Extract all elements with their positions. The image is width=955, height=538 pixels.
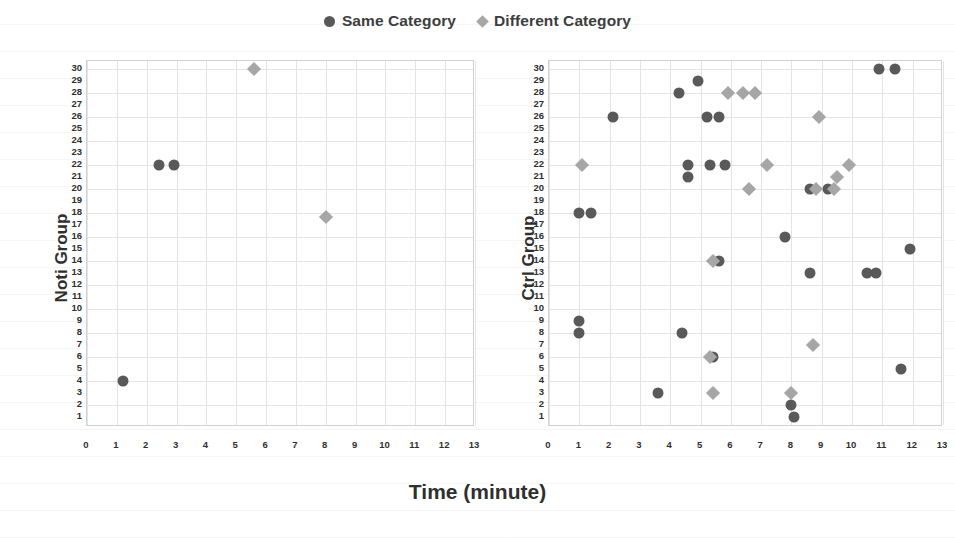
x-tick-label: 11	[409, 440, 419, 450]
y-tick-label: 7	[539, 339, 544, 349]
y-tick-label: 3	[539, 387, 544, 397]
legend-marker-diamond-icon	[476, 15, 489, 28]
x-tick-label: 8	[788, 440, 793, 450]
gridline-vertical	[326, 61, 327, 425]
gridline-horizontal	[87, 309, 473, 310]
data-point-diamond	[760, 158, 774, 172]
gridline-vertical	[236, 61, 237, 425]
y-tick-label: 16	[533, 231, 544, 241]
y-tick-label: 17	[533, 219, 544, 229]
y-tick-label: 23	[71, 147, 82, 157]
y-tick-label: 9	[77, 315, 82, 325]
legend-label: Different Category	[494, 12, 631, 30]
x-tick-label: 13	[469, 440, 480, 450]
y-tick-label: 7	[77, 339, 82, 349]
y-tick-label: 25	[71, 123, 82, 133]
data-point-circle	[168, 160, 179, 171]
x-tick-label: 10	[379, 440, 390, 450]
y-tick-label: 14	[71, 255, 82, 265]
gridline-horizontal	[549, 165, 941, 166]
y-tick-label: 17	[71, 219, 82, 229]
gridline-vertical	[731, 61, 732, 425]
y-tick-label: 13	[533, 267, 544, 277]
y-tick-label: 10	[71, 303, 82, 313]
data-point-circle	[683, 160, 694, 171]
gridline-horizontal	[549, 381, 941, 382]
gridline-vertical	[415, 61, 416, 425]
gridline-horizontal	[87, 141, 473, 142]
gridline-vertical	[147, 61, 148, 425]
gridline-horizontal	[549, 237, 941, 238]
gridline-vertical	[670, 61, 671, 425]
gridline-horizontal	[87, 189, 473, 190]
data-point-diamond	[748, 86, 762, 100]
y-tick-label: 26	[533, 111, 544, 121]
y-tick-label: 24	[533, 135, 544, 145]
data-point-diamond	[806, 338, 820, 352]
data-point-circle	[871, 268, 882, 279]
gridline-horizontal	[549, 213, 941, 214]
y-tick-label: 21	[533, 171, 544, 181]
x-axis-ticks-noti: 012345678910111213	[16, 440, 476, 454]
data-point-circle	[677, 328, 688, 339]
data-point-circle	[895, 364, 906, 375]
y-tick-label: 25	[533, 123, 544, 133]
y-tick-label: 4	[539, 375, 544, 385]
y-tick-label: 6	[539, 351, 544, 361]
y-tick-label: 9	[539, 315, 544, 325]
x-tick-label: 0	[83, 440, 88, 450]
y-tick-label: 23	[533, 147, 544, 157]
y-tick-label: 14	[533, 255, 544, 265]
data-point-circle	[574, 208, 585, 219]
y-tick-label: 19	[71, 195, 82, 205]
data-point-diamond	[247, 62, 261, 76]
gridline-vertical	[177, 61, 178, 425]
data-point-circle	[153, 160, 164, 171]
y-tick-label: 30	[533, 63, 544, 73]
gridline-vertical	[445, 61, 446, 425]
y-tick-label: 22	[533, 159, 544, 169]
data-point-circle	[574, 328, 585, 339]
data-point-circle	[874, 64, 885, 75]
x-tick-label: 3	[173, 440, 178, 450]
data-point-circle	[713, 112, 724, 123]
data-point-diamond	[812, 110, 826, 124]
x-tick-label: 4	[667, 440, 672, 450]
gridline-vertical	[943, 61, 944, 425]
x-tick-label: 6	[262, 440, 267, 450]
data-point-circle	[701, 112, 712, 123]
data-point-circle	[653, 388, 664, 399]
panel-ctrl-group: Ctrl Group 12345678910111213141516171819…	[484, 52, 944, 464]
y-tick-label: 11	[534, 291, 544, 301]
data-point-circle	[804, 268, 815, 279]
x-tick-label: 6	[727, 440, 732, 450]
gridline-vertical	[385, 61, 386, 425]
x-tick-label: 10	[846, 440, 857, 450]
x-tick-label: 5	[233, 440, 238, 450]
data-point-circle	[692, 76, 703, 87]
x-tick-label: 2	[606, 440, 611, 450]
data-point-circle	[704, 160, 715, 171]
y-tick-label: 19	[533, 195, 544, 205]
y-tick-label: 12	[533, 279, 544, 289]
data-point-diamond	[721, 86, 735, 100]
x-tick-label: 12	[906, 440, 917, 450]
y-tick-label: 27	[533, 99, 544, 109]
gridline-horizontal	[549, 405, 941, 406]
gridline-horizontal	[549, 357, 941, 358]
gridline-horizontal	[87, 69, 473, 70]
plot-area-ctrl	[548, 60, 942, 426]
data-point-circle	[574, 316, 585, 327]
y-tick-label: 1	[77, 411, 82, 421]
gridline-vertical	[117, 61, 118, 425]
data-point-circle	[586, 208, 597, 219]
y-tick-label: 22	[71, 159, 82, 169]
gridline-horizontal	[87, 357, 473, 358]
data-point-circle	[674, 88, 685, 99]
data-point-diamond	[742, 182, 756, 196]
gridline-vertical	[852, 61, 853, 425]
y-tick-label: 16	[71, 231, 82, 241]
data-point-circle	[904, 244, 915, 255]
y-tick-label: 27	[71, 99, 82, 109]
gridline-vertical	[206, 61, 207, 425]
